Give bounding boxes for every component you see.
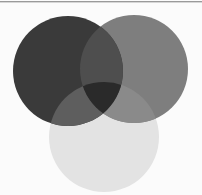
venn-diagram — [0, 0, 202, 195]
